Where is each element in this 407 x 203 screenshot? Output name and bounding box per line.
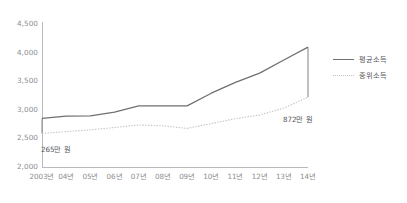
legend-label-median: 중위소득 — [359, 72, 387, 79]
legend-solid-line-icon — [333, 56, 354, 64]
legend-label-average: 평균소득 — [359, 56, 387, 63]
legend-item-average: 평균소득 — [333, 52, 407, 68]
annotation-gap-2014: 872만 원 — [283, 116, 312, 123]
series-line-average — [42, 47, 308, 118]
gap-connectors — [42, 47, 308, 133]
chart-legend: 평균소득 중위소득 — [333, 52, 407, 84]
income-line-chart: 2,0002,5003,0003,5004,0004,500 2003년04년0… — [0, 0, 407, 203]
legend-item-median: 중위소득 — [333, 68, 407, 84]
plot-area — [0, 0, 407, 203]
legend-dotted-line-icon — [333, 72, 354, 80]
annotation-gap-2003: 265만 원 — [41, 146, 70, 153]
